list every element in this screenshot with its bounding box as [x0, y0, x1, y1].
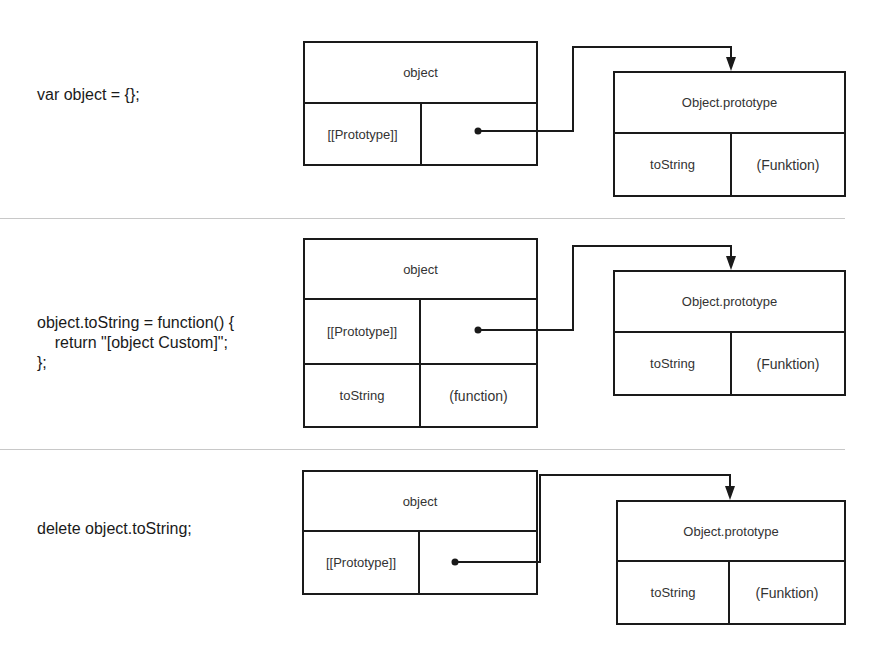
prototype-arrow-2 — [478, 246, 731, 330]
arrowhead-icon — [726, 57, 736, 71]
prototype-arrow-1 — [478, 47, 731, 131]
pointer-dot-icon — [475, 327, 482, 334]
arrowhead-icon — [726, 256, 736, 270]
pointer-dot-icon — [452, 559, 459, 566]
arrowhead-icon — [725, 486, 735, 500]
prototype-link-arrows — [0, 0, 880, 657]
prototype-arrow-3 — [455, 475, 730, 562]
pointer-dot-icon — [475, 128, 482, 135]
